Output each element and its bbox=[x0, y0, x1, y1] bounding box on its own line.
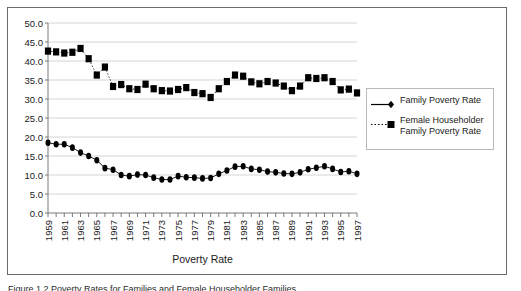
svg-text:35.0: 35.0 bbox=[25, 75, 44, 86]
svg-text:1971: 1971 bbox=[140, 220, 151, 241]
svg-text:25.0: 25.0 bbox=[25, 113, 44, 124]
legend-key-square-icon bbox=[371, 116, 397, 127]
legend-item-female-householder-family-poverty-rate: Female Householder Family Poverty Rate bbox=[371, 115, 489, 136]
svg-text:1981: 1981 bbox=[221, 220, 232, 241]
svg-text:10.0: 10.0 bbox=[25, 170, 44, 181]
svg-text:30.0: 30.0 bbox=[25, 94, 44, 105]
svg-text:1965: 1965 bbox=[91, 220, 102, 241]
svg-text:1983: 1983 bbox=[238, 220, 249, 241]
figure-root: 0.05.010.015.020.025.030.035.040.045.050… bbox=[0, 0, 521, 291]
svg-text:0.0: 0.0 bbox=[30, 208, 43, 219]
legend-key-diamond-icon bbox=[371, 96, 397, 107]
chart-legend: Family Poverty Rate Female Householder F… bbox=[366, 88, 494, 150]
svg-text:1973: 1973 bbox=[156, 220, 167, 241]
svg-text:40.0: 40.0 bbox=[25, 56, 44, 67]
svg-text:1995: 1995 bbox=[335, 220, 346, 241]
svg-text:1961: 1961 bbox=[59, 220, 70, 241]
svg-text:1977: 1977 bbox=[189, 220, 200, 241]
svg-text:5.0: 5.0 bbox=[30, 189, 43, 200]
svg-text:1979: 1979 bbox=[205, 220, 216, 241]
svg-text:50.0: 50.0 bbox=[25, 18, 44, 29]
figure-caption: Figure 1.2 Poverty Rates for Families an… bbox=[8, 284, 308, 291]
svg-text:15.0: 15.0 bbox=[25, 151, 44, 162]
svg-text:20.0: 20.0 bbox=[25, 132, 44, 143]
svg-text:1987: 1987 bbox=[270, 220, 281, 241]
svg-text:1967: 1967 bbox=[108, 220, 119, 241]
svg-text:1963: 1963 bbox=[75, 220, 86, 241]
svg-text:1969: 1969 bbox=[124, 220, 135, 241]
svg-text:45.0: 45.0 bbox=[25, 37, 44, 48]
svg-text:1989: 1989 bbox=[286, 220, 297, 241]
svg-text:1985: 1985 bbox=[254, 220, 265, 241]
chart-frame: 0.05.010.015.020.025.030.035.040.045.050… bbox=[7, 7, 507, 275]
svg-text:1975: 1975 bbox=[173, 220, 184, 241]
legend-label-family-poverty-rate: Family Poverty Rate bbox=[400, 95, 481, 106]
svg-text:1993: 1993 bbox=[319, 220, 330, 241]
legend-label-female-householder-family-poverty-rate: Female Householder Family Poverty Rate bbox=[400, 115, 484, 136]
svg-text:1991: 1991 bbox=[303, 220, 314, 241]
svg-text:1997: 1997 bbox=[352, 220, 363, 241]
svg-text:1959: 1959 bbox=[43, 220, 54, 241]
legend-item-family-poverty-rate: Family Poverty Rate bbox=[371, 95, 489, 107]
svg-text:Poverty Rate: Poverty Rate bbox=[172, 253, 233, 265]
